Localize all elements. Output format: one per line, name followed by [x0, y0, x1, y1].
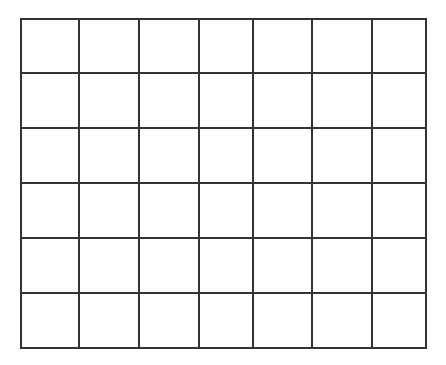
grid-cell [139, 183, 199, 238]
grid-cell [312, 73, 372, 128]
grid-cell [199, 128, 253, 183]
grid-diagram [0, 0, 446, 365]
grid-cell [79, 293, 139, 348]
grid-cell [312, 128, 372, 183]
grid-cell [253, 238, 312, 293]
grid-cell [372, 293, 426, 348]
grid-cell [21, 183, 79, 238]
grid-cell [79, 238, 139, 293]
grid-cell [312, 19, 372, 73]
grid-cell [312, 183, 372, 238]
grid-cell [372, 128, 426, 183]
grid-cell [253, 183, 312, 238]
grid-cell [139, 19, 199, 73]
grid-cell [253, 19, 312, 73]
grid-cell [199, 73, 253, 128]
grid-cell [253, 73, 312, 128]
grid-cell [79, 128, 139, 183]
grid-cell [199, 183, 253, 238]
grid-cell [139, 128, 199, 183]
grid-cell [21, 293, 79, 348]
grid-cell [199, 19, 253, 73]
grid-cell [79, 73, 139, 128]
grid-cell [199, 238, 253, 293]
grid-cell [21, 128, 79, 183]
grid-cell [139, 238, 199, 293]
grid-cell [372, 19, 426, 73]
grid-cell [21, 73, 79, 128]
grid-cell [21, 19, 79, 73]
grid-cell [372, 238, 426, 293]
grid-cell [372, 73, 426, 128]
grid-cell [372, 183, 426, 238]
grid-cell [253, 293, 312, 348]
grid-cell [79, 183, 139, 238]
grid-cell [139, 73, 199, 128]
grid-cell [253, 128, 312, 183]
grid-cell [199, 293, 253, 348]
grid-cell [312, 293, 372, 348]
grid-cell [79, 19, 139, 73]
grid-cell [139, 293, 199, 348]
grid-cell [21, 238, 79, 293]
grid-cell [312, 238, 372, 293]
